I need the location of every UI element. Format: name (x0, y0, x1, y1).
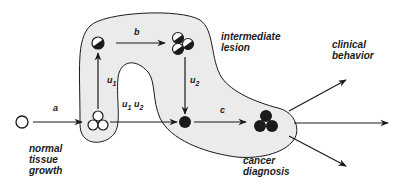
outcome-arrow-down (289, 136, 346, 166)
label-b: b (134, 28, 140, 37)
u1u2-sub1: 1 (128, 104, 132, 111)
u1u2-sub2: 2 (139, 104, 143, 111)
u2-u: u (190, 75, 196, 85)
u2-sub: 2 (196, 80, 200, 87)
label-cancer-diagnosis: cancer diagnosis (243, 155, 290, 177)
label-u1: u1 (107, 76, 116, 85)
label-u1u2: u1 u2 (122, 100, 143, 109)
label-normal-tissue-growth: normal tissue growth (29, 143, 62, 176)
u1u2-u1: u (122, 99, 128, 109)
label-c: c (220, 106, 225, 115)
label-intermediate-lesion: intermediate lesion (221, 31, 280, 53)
u1-sub: 1 (113, 80, 117, 87)
malignant-cell-icon (179, 116, 191, 128)
normal-cell-icon (16, 116, 28, 128)
label-a: a (53, 104, 58, 113)
outcome-arrow-up (289, 80, 346, 111)
u1-u: u (107, 75, 113, 85)
label-clinical-behavior: clinical behavior (332, 39, 374, 61)
label-u2: u2 (190, 76, 199, 85)
